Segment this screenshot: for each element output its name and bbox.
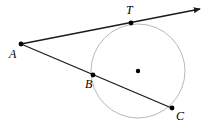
point-label-a: A — [9, 48, 16, 60]
point-label-c: C — [176, 110, 184, 122]
secant-line-abc — [21, 44, 174, 109]
point-dot-a — [19, 42, 24, 47]
point-dot-t — [129, 21, 134, 26]
point-label-t: T — [126, 4, 133, 16]
circle-center-dot — [136, 69, 140, 73]
point-label-b: B — [85, 78, 92, 90]
point-dot-c — [170, 106, 175, 111]
tangent-ray-at — [21, 9, 200, 44]
geometry-figure: A T B C — [0, 0, 211, 128]
